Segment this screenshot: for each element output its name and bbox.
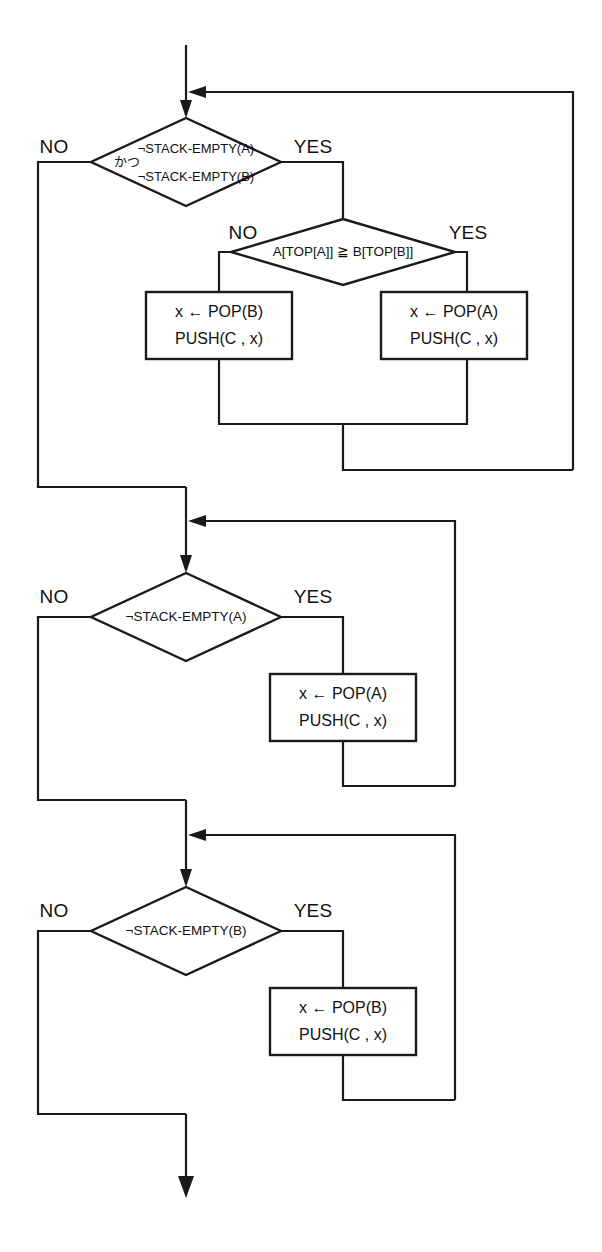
process-2-line2: PUSH(C , x) [410, 330, 498, 347]
decision-2-text: A[TOP[A]] ≧ B[TOP[B]] [273, 244, 414, 259]
decision-4-yes-label: YES [294, 900, 333, 921]
decision-stack-empty-a-and-b[interactable]: ¬STACK-EMPTY(A) かつ ¬STACK-EMPTY(B) [91, 118, 281, 206]
process-4-line2: PUSH(C , x) [299, 1026, 387, 1043]
process-1-line1: x ← POP(B) [175, 303, 263, 320]
decision-1-line1: ¬STACK-EMPTY(A) [138, 141, 254, 156]
decision-1-line2: ¬STACK-EMPTY(B) [138, 169, 254, 184]
process-4-line1: x ← POP(B) [299, 999, 387, 1016]
process-pop-b-push-c-1[interactable]: x ← POP(B) PUSH(C , x) [146, 292, 292, 359]
decision-top-a-ge-top-b[interactable]: A[TOP[A]] ≧ B[TOP[B]] [231, 219, 455, 285]
decision-3-no-label: NO [40, 586, 69, 607]
process-return-path-3 [343, 1055, 455, 1100]
decision-stack-empty-a[interactable]: ¬STACK-EMPTY(A) [91, 573, 281, 661]
decision-4-yes-path [281, 931, 343, 988]
decision-3-yes-label: YES [294, 586, 333, 607]
flowchart-svg: ¬STACK-EMPTY(A) かつ ¬STACK-EMPTY(B) NO YE… [0, 0, 602, 1252]
decision-2-no-label: NO [229, 222, 258, 243]
flowchart-canvas: ¬STACK-EMPTY(A) かつ ¬STACK-EMPTY(B) NO YE… [0, 0, 602, 1252]
decision-3-text: ¬STACK-EMPTY(A) [126, 609, 247, 624]
process-3-line1: x ← POP(A) [299, 685, 387, 702]
exit-connector [178, 1114, 194, 1198]
process-3-line2: PUSH(C , x) [299, 712, 387, 729]
process-pop-a-push-c-1[interactable]: x ← POP(A) PUSH(C , x) [381, 292, 527, 359]
section-2-to-3-connector [180, 800, 192, 887]
decision-1-no-label: NO [40, 136, 69, 157]
loop-back-connector-2 [188, 515, 455, 786]
process-pop-a-push-c-2[interactable]: x ← POP(A) PUSH(C , x) [270, 674, 416, 741]
loop-back-connector-3 [188, 829, 455, 1100]
decision-2-yes-label: YES [449, 222, 488, 243]
process-return-path-2 [343, 741, 455, 786]
entry-connector [180, 45, 192, 118]
process-pop-b-push-c-2[interactable]: x ← POP(B) PUSH(C , x) [270, 988, 416, 1055]
process-2-line1: x ← POP(A) [410, 303, 498, 320]
decision-1-yes-path [281, 162, 343, 219]
decision-stack-empty-b[interactable]: ¬STACK-EMPTY(B) [91, 887, 281, 975]
decision-1-conjunction: かつ [114, 154, 140, 169]
decision-1-yes-label: YES [294, 136, 333, 157]
section-1-to-2-connector [180, 487, 192, 573]
decision-4-text: ¬STACK-EMPTY(B) [126, 923, 247, 938]
process-merge-path-1 [219, 359, 467, 424]
decision-4-no-label: NO [40, 900, 69, 921]
process-1-line2: PUSH(C , x) [175, 330, 263, 347]
decision-2-yes-path [455, 252, 467, 292]
decision-3-yes-path [281, 617, 343, 674]
inner-loop-return-path-1 [343, 424, 573, 470]
decision-2-no-path [219, 252, 231, 292]
